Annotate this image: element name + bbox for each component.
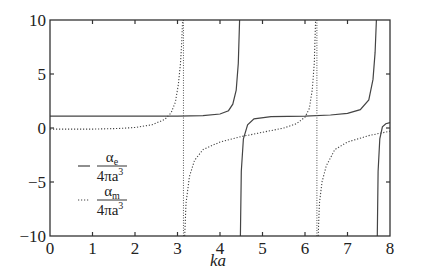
axes: 0123456781050−5−10 xyxy=(19,11,394,258)
series-line-alpha-m xyxy=(185,20,316,236)
y-tick-label: 0 xyxy=(38,119,47,138)
legend: αe4πa3αm4πa3 xyxy=(78,149,127,218)
x-tick-label: 8 xyxy=(386,239,395,258)
x-tick-label: 3 xyxy=(173,239,182,258)
x-tick-label: 5 xyxy=(258,239,267,258)
legend-denominator: 4πa3 xyxy=(97,200,124,218)
x-tick-label: 7 xyxy=(343,239,352,258)
polarizability-chart: 0123456781050−5−10 αe4πa3αm4πa3 ka xyxy=(0,0,425,276)
series-line-alpha-e xyxy=(377,123,390,236)
series-line-alpha-e xyxy=(240,20,376,236)
x-tick-label: 0 xyxy=(46,239,55,258)
legend-denominator: 4πa3 xyxy=(97,166,124,184)
y-tick-label: −10 xyxy=(19,227,46,246)
y-tick-label: 5 xyxy=(38,65,47,84)
series-line-alpha-m xyxy=(50,20,183,129)
x-tick-label: 2 xyxy=(131,239,140,258)
x-tick-label: 6 xyxy=(301,239,310,258)
legend-numerator: αm xyxy=(104,183,120,201)
x-axis-label: ka xyxy=(210,251,226,270)
y-tick-label: −5 xyxy=(28,173,46,192)
series-line-alpha-e xyxy=(50,20,240,116)
legend-numerator: αe xyxy=(106,149,119,167)
x-tick-label: 1 xyxy=(88,239,97,258)
y-tick-label: 10 xyxy=(29,11,46,30)
